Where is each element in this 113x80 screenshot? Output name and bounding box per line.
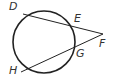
label-F: F <box>99 37 106 50</box>
circle <box>13 11 75 73</box>
geometry-diagram: D E F G H <box>0 0 113 80</box>
label-D: D <box>9 0 17 13</box>
label-E: E <box>74 12 81 25</box>
label-H: H <box>9 64 17 77</box>
label-G: G <box>76 47 85 60</box>
